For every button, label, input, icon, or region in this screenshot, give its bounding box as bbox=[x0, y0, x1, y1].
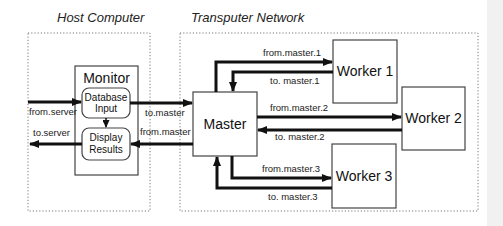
from-master-label: from.master bbox=[140, 126, 191, 137]
from-server-label: from.server bbox=[29, 106, 77, 117]
to-master-2-label: to. master.2 bbox=[275, 131, 325, 142]
database-input-label-1: Database bbox=[85, 92, 128, 103]
to-master-1-label: to. master.1 bbox=[270, 75, 320, 86]
host-computer-title: Host Computer bbox=[57, 10, 145, 25]
worker2-label: Worker 2 bbox=[405, 110, 462, 126]
transputer-network-title: Transputer Network bbox=[191, 10, 306, 25]
to-master-label: to.master bbox=[145, 107, 185, 118]
from-master-3-label: from.master.3 bbox=[262, 163, 320, 174]
worker3-label: Worker 3 bbox=[336, 168, 393, 184]
diagram-canvas: Host Computer Transputer Network Monitor… bbox=[0, 0, 503, 226]
to-master-3-label: to. master.3 bbox=[268, 191, 318, 202]
from-master-1-label: from.master.1 bbox=[263, 47, 321, 58]
worker1-label: Worker 1 bbox=[337, 63, 394, 79]
display-results-label-2: Results bbox=[89, 144, 122, 155]
database-input-label-2: Input bbox=[95, 103, 117, 114]
monitor-label: Monitor bbox=[83, 70, 130, 86]
master-label: Master bbox=[204, 116, 247, 132]
to-server-label: to.server bbox=[33, 127, 70, 138]
display-results-label-1: Display bbox=[90, 132, 123, 143]
from-master-2-label: from.master.2 bbox=[270, 102, 328, 113]
